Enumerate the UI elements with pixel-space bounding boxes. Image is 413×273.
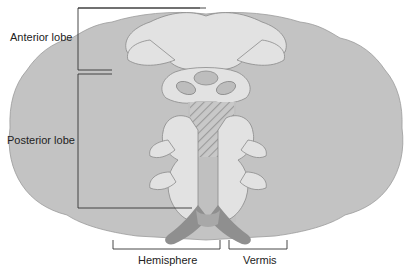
nucleus-center	[194, 71, 218, 85]
posterior-lobe-label: Posterior lobe	[7, 134, 75, 146]
anterior-lobe-label: Anterior lobe	[10, 31, 72, 43]
vermis-label: Vermis	[243, 254, 277, 266]
hemisphere-label: Hemisphere	[138, 254, 197, 266]
